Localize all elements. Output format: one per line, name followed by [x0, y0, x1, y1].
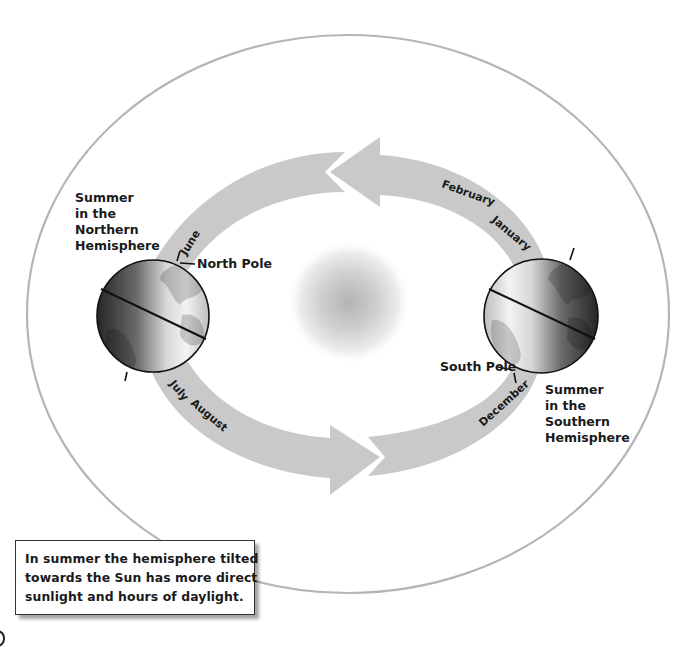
north-pole-label: North Pole: [197, 256, 272, 271]
axis-tick-top-right: [570, 248, 574, 260]
axis-tick-bottom-left: [125, 372, 127, 381]
northern-summer-label: Summer in the Northern Hemisphere: [75, 190, 160, 253]
southern-summer-label: Summer in the Southern Hemisphere: [545, 382, 630, 445]
north-pole-leader: [180, 263, 195, 264]
callout-line-2: towards the Sun has more direct: [25, 568, 246, 587]
callout-line-1: In summer the hemisphere tilted: [25, 549, 246, 568]
orbit-arrow-bottom: [150, 362, 538, 495]
sun-icon: [287, 240, 411, 364]
callout-line-3: sunlight and hours of daylight.: [25, 587, 246, 606]
south-pole-label: South Pole: [440, 359, 516, 374]
explanation-callout: In summer the hemisphere tilted towards …: [15, 540, 255, 615]
earth-globe-icon-left: [97, 251, 209, 381]
